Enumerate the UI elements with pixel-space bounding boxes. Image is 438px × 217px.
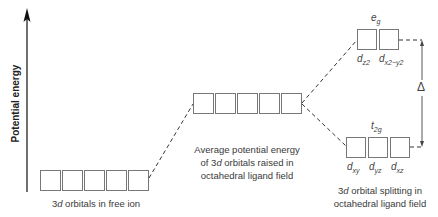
dashed-connector-average-to-t2g	[302, 104, 346, 146]
arrowhead-up-icon	[420, 40, 424, 46]
dyz-label: dyz	[369, 161, 382, 174]
dxz-label: dxz	[391, 161, 404, 174]
splitting-label-line-2: octahedral ligand field	[322, 197, 438, 210]
t2g-orbitals	[347, 138, 410, 158]
axis-label: Potential energy	[10, 59, 21, 149]
arrowhead-down-icon	[420, 141, 424, 147]
eg-orbitals	[358, 30, 399, 50]
free-ion-orbitals	[41, 171, 149, 191]
delta-label: Δ	[417, 80, 425, 94]
average-label-line-1: Average potential energy	[187, 143, 307, 156]
splitting-label: 3d orbital splitting in octahedral ligan…	[322, 184, 438, 210]
average-label-line-2: of 3d orbitals raised in	[187, 156, 307, 169]
average-orbitals	[194, 94, 302, 114]
dx2-y2-label: dx2−y2	[379, 53, 403, 66]
dz2-label: dz2	[357, 53, 370, 66]
potential-energy-axis	[24, 8, 31, 192]
free-ion-label: 3d orbitals in free ion	[44, 197, 148, 210]
splitting-label-line-1: 3d orbital splitting in	[322, 184, 438, 197]
dxy-label: dxy	[347, 161, 360, 174]
dashed-connector-average-to-eg	[302, 40, 357, 103]
t2g-group-label: t2g	[371, 120, 382, 133]
average-energy-label: Average potential energy of 3d orbitals …	[187, 143, 307, 182]
eg-group-label: eg	[371, 12, 380, 25]
average-label-line-3: octahedral ligand field	[187, 169, 307, 182]
